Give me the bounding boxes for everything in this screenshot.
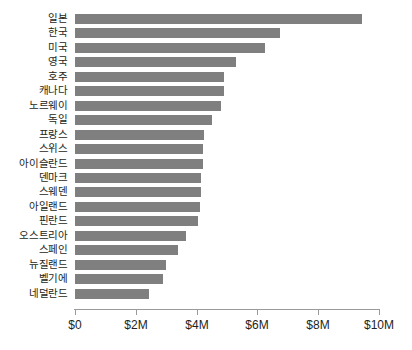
category-label: 미국 <box>0 42 72 53</box>
bar <box>75 231 186 241</box>
category-label: 핀란드 <box>0 215 72 226</box>
category-label: 네덜란드 <box>0 288 72 299</box>
bar <box>75 43 265 53</box>
bar <box>75 202 200 212</box>
category-label: 호주 <box>0 71 72 82</box>
category-label: 오스트리아 <box>0 230 72 241</box>
bar <box>75 245 178 255</box>
bar <box>75 216 198 226</box>
x-axis-tick-label: $0 <box>45 318 105 332</box>
category-label: 벨기에 <box>0 273 72 284</box>
bar <box>75 130 204 140</box>
bar <box>75 187 201 197</box>
category-label: 프랑스 <box>0 129 72 140</box>
x-axis-tick <box>257 309 258 315</box>
category-label: 캐나다 <box>0 85 72 96</box>
x-axis-tick-label: $2M <box>106 318 166 332</box>
category-label: 아일랜드 <box>0 201 72 212</box>
x-axis-tick-label: $10M <box>349 318 409 332</box>
bar-chart: 일본한국미국영국호주캐나다노르웨이독일프랑스스위스아이슬란드덴마크스웨덴아일랜드… <box>0 0 412 350</box>
bar <box>75 173 201 183</box>
category-label: 스웨덴 <box>0 186 72 197</box>
x-axis-tick <box>75 309 76 315</box>
bar <box>75 86 224 96</box>
category-label: 스위스 <box>0 143 72 154</box>
bar <box>75 14 362 24</box>
category-label: 영국 <box>0 56 72 67</box>
bar <box>75 144 203 154</box>
category-label: 스페인 <box>0 244 72 255</box>
category-label: 독일 <box>0 114 72 125</box>
category-label: 뉴질랜드 <box>0 259 72 270</box>
x-axis-tick <box>379 309 380 315</box>
x-axis-line <box>74 309 380 310</box>
bar <box>75 274 163 284</box>
category-label: 아이슬란드 <box>0 158 72 169</box>
bar <box>75 57 236 67</box>
x-axis-tick-label: $6M <box>227 318 287 332</box>
x-axis-tick <box>136 309 137 315</box>
x-axis-tick <box>197 309 198 315</box>
bar <box>75 72 224 82</box>
bar <box>75 28 280 38</box>
bar <box>75 101 221 111</box>
category-label: 노르웨이 <box>0 100 72 111</box>
category-label: 덴마크 <box>0 172 72 183</box>
bar <box>75 289 149 299</box>
bar <box>75 115 212 125</box>
x-axis-tick-label: $8M <box>288 318 348 332</box>
category-label: 한국 <box>0 27 72 38</box>
x-axis-tick-label: $4M <box>167 318 227 332</box>
plot-area: 일본한국미국영국호주캐나다노르웨이독일프랑스스위스아이슬란드덴마크스웨덴아일랜드… <box>0 0 412 350</box>
bar <box>75 159 203 169</box>
category-label: 일본 <box>0 13 72 24</box>
bar <box>75 260 166 270</box>
x-axis-tick <box>318 309 319 315</box>
